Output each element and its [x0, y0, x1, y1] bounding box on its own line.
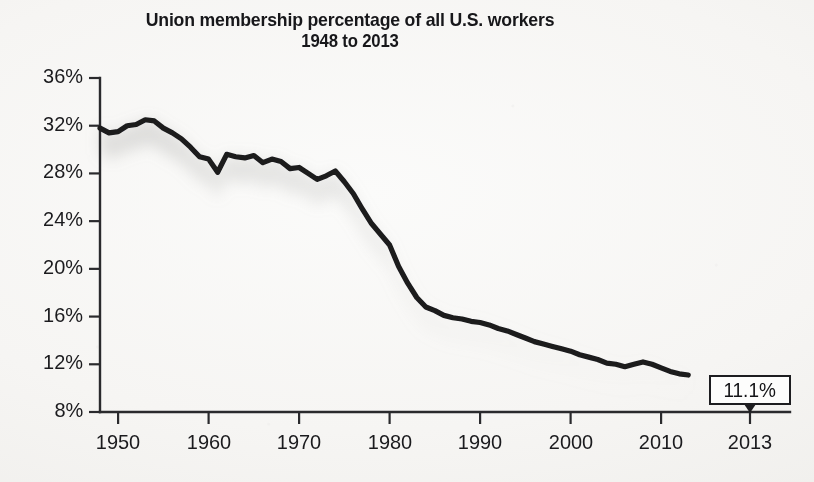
x-axis-tick-label: 1980 — [352, 430, 428, 454]
chart-figure: Union membership percentage of all U.S. … — [0, 0, 814, 482]
endpoint-callout-box: 11.1% — [709, 375, 791, 405]
plot-area: 36%32%28%24%20%16%12%8% 1950196019701980… — [0, 0, 814, 482]
y-axis-tick-label: 8% — [54, 398, 83, 422]
y-axis-tick-label: 36% — [43, 64, 83, 88]
y-axis-tick-label: 20% — [43, 255, 83, 279]
y-axis-tick-label: 32% — [43, 112, 83, 136]
y-axis-tick-label: 24% — [43, 207, 83, 231]
x-axis-tick-label: 1990 — [442, 430, 518, 454]
y-axis-tick-label: 12% — [43, 350, 83, 374]
x-axis-tick-label: 2013 — [712, 430, 788, 454]
x-axis-tick-label: 2000 — [533, 430, 609, 454]
x-axis-tick-label: 1960 — [171, 430, 247, 454]
callout-pointer-icon — [744, 404, 756, 413]
x-axis-tick-label: 1970 — [261, 430, 337, 454]
x-axis-tick-label: 2010 — [623, 430, 699, 454]
y-axis-tick-label: 16% — [43, 303, 83, 327]
chart-svg — [0, 0, 814, 482]
endpoint-callout-label: 11.1% — [724, 379, 776, 402]
x-axis-tick-label: 1950 — [80, 430, 156, 454]
y-axis-tick-label: 28% — [43, 159, 83, 183]
